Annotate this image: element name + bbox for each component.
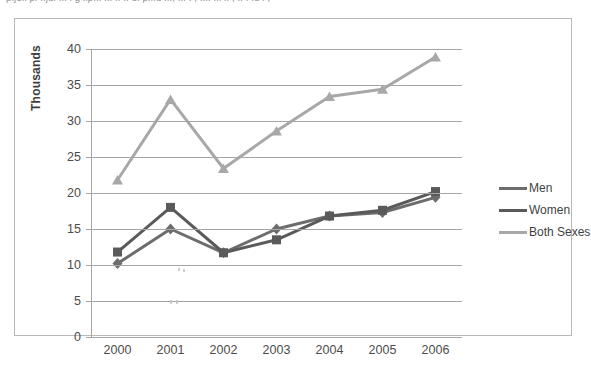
chart-legend: MenWomenBoth Sexes bbox=[499, 177, 591, 243]
series-line bbox=[118, 57, 436, 180]
legend-swatch bbox=[499, 203, 527, 217]
scan-artifact bbox=[176, 300, 178, 304]
triangle-marker bbox=[430, 52, 441, 62]
y-axis-tick bbox=[86, 337, 91, 338]
x-axis-tick-label: 2000 bbox=[88, 343, 148, 357]
x-axis-tick-label: 2003 bbox=[247, 343, 307, 357]
y-axis-tick bbox=[86, 301, 91, 302]
scan-artifact bbox=[170, 300, 172, 304]
square-marker bbox=[166, 203, 175, 212]
y-axis-tick bbox=[86, 265, 91, 266]
y-axis-tick-labels: 0510152025303540 bbox=[41, 19, 81, 337]
scan-artifact bbox=[183, 269, 185, 272]
triangle-icon bbox=[499, 225, 508, 234]
diamond-icon bbox=[499, 181, 508, 190]
legend-label: Women bbox=[527, 203, 570, 217]
square-marker bbox=[325, 212, 334, 221]
x-axis-tick-labels: 2000200120022003200420052006 bbox=[91, 343, 462, 361]
y-axis-tick-label: 0 bbox=[47, 330, 81, 344]
gridline bbox=[91, 193, 462, 194]
gridline bbox=[91, 229, 462, 230]
legend-swatch bbox=[499, 225, 527, 239]
plot-area bbox=[91, 49, 462, 337]
x-axis-tick-label: 2004 bbox=[300, 343, 360, 357]
y-axis-tick bbox=[86, 85, 91, 86]
y-axis-tick-label: 30 bbox=[47, 114, 81, 128]
legend-swatch bbox=[499, 181, 527, 195]
y-axis-tick bbox=[86, 49, 91, 50]
x-axis-tick-label: 2001 bbox=[141, 343, 201, 357]
y-axis-tick bbox=[86, 229, 91, 230]
x-axis-tick-label: 2006 bbox=[406, 343, 466, 357]
square-marker bbox=[431, 187, 440, 196]
gridline bbox=[91, 85, 462, 86]
legend-item-men[interactable]: Men bbox=[499, 177, 591, 199]
gridline bbox=[91, 121, 462, 122]
y-axis-tick-label: 5 bbox=[47, 294, 81, 308]
triangle-marker bbox=[165, 94, 176, 104]
gridline bbox=[91, 301, 462, 302]
legend-item-women[interactable]: Women bbox=[499, 199, 591, 221]
gridline bbox=[91, 337, 462, 338]
chart-frame: 0510152025303540 Thousands 2000200120022… bbox=[14, 18, 572, 336]
y-axis-title: Thousands bbox=[29, 23, 43, 133]
gridline bbox=[91, 157, 462, 158]
y-axis-tick bbox=[86, 193, 91, 194]
legend-label: Men bbox=[527, 181, 552, 195]
legend-label: Both Sexes bbox=[527, 225, 590, 239]
scan-artifact bbox=[178, 268, 180, 271]
triangle-marker bbox=[508, 228, 509, 235]
y-axis-tick-label: 35 bbox=[47, 78, 81, 92]
y-axis-tick-label: 40 bbox=[47, 42, 81, 56]
legend-item-both-sexes[interactable]: Both Sexes bbox=[499, 221, 591, 243]
square-marker bbox=[219, 248, 228, 257]
square-marker bbox=[378, 206, 387, 215]
gridline bbox=[91, 265, 462, 266]
cut-off-header-text: p.ju.i p. ..ju. ... i g .ip... ... .. ..… bbox=[6, 0, 586, 4]
y-axis-tick-label: 15 bbox=[47, 222, 81, 236]
y-axis-tick-label: 10 bbox=[47, 258, 81, 272]
gridline bbox=[91, 49, 462, 50]
y-axis-tick-label: 25 bbox=[47, 150, 81, 164]
square-marker bbox=[272, 235, 281, 244]
square-icon bbox=[499, 203, 508, 212]
y-axis-tick bbox=[86, 157, 91, 158]
y-axis-tick-label: 20 bbox=[47, 186, 81, 200]
y-axis-tick bbox=[86, 121, 91, 122]
x-axis-tick-label: 2005 bbox=[353, 343, 413, 357]
x-axis-tick-label: 2002 bbox=[194, 343, 254, 357]
square-marker bbox=[113, 248, 122, 257]
